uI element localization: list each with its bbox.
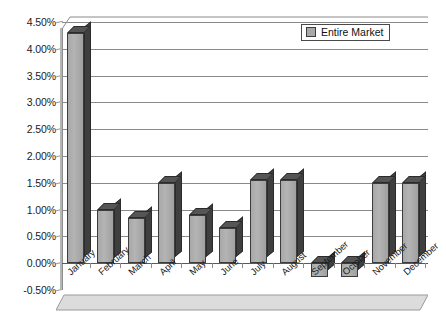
y-axis-tick-label: 0.00% [27, 257, 56, 269]
x-axis-tick-mark [242, 263, 243, 268]
x-axis-tick-mark [334, 263, 335, 268]
bar-front-face [280, 180, 297, 263]
bar-side-face [389, 171, 396, 257]
y-axis-tick-label: 4.50% [27, 16, 56, 28]
x-axis-tick-mark [425, 263, 426, 268]
bar-side-face [84, 21, 91, 257]
y-axis-tick-label: 0.50% [27, 230, 56, 242]
x-axis-tick-mark [364, 263, 365, 268]
bar-front-face [67, 33, 84, 263]
x-axis-tick-mark [90, 263, 91, 268]
bar-front-face [189, 215, 206, 263]
legend: Entire Market [301, 24, 390, 41]
bar [280, 180, 297, 263]
y-axis-tick-label: 2.00% [27, 150, 56, 162]
bar [67, 33, 84, 263]
y-axis-tick-label: 4.00% [27, 43, 56, 55]
bar-side-face [419, 171, 426, 257]
x-axis-tick-mark [120, 263, 121, 268]
y-axis-tick-label: -0.50% [23, 284, 56, 296]
x-axis-tick-mark [212, 263, 213, 268]
bar-side-face [267, 168, 274, 257]
bar-side-face [297, 168, 304, 257]
y-axis-tick-label: 1.50% [27, 177, 56, 189]
y-axis-labels: -0.50%0.00%0.50%1.00%1.50%2.00%2.50%3.00… [0, 0, 56, 329]
bar [250, 180, 267, 263]
bar [372, 183, 389, 263]
bar-front-face [158, 183, 175, 263]
x-axis-tick-mark [151, 263, 152, 268]
x-axis-tick-mark [181, 263, 182, 268]
bar [189, 215, 206, 263]
bar [158, 183, 175, 263]
x-axis-tick-mark [303, 263, 304, 268]
plot-floor [56, 289, 428, 311]
y-axis-tick-label: 1.00% [27, 204, 56, 216]
y-axis-tick-label: 2.50% [27, 123, 56, 135]
bar-front-face [250, 180, 267, 263]
bar-side-face [175, 171, 182, 257]
legend-swatch-entire-market [306, 27, 316, 37]
legend-label-entire-market: Entire Market [321, 27, 383, 38]
y-axis-tick-label: 3.00% [27, 96, 56, 108]
x-axis-tick-mark [273, 263, 274, 268]
y-axis-tick-label: 3.50% [27, 70, 56, 82]
bar-front-face [372, 183, 389, 263]
x-axis-tick-mark [395, 263, 396, 268]
bar-chart: -0.50%0.00%0.50%1.00%1.50%2.00%2.50%3.00… [0, 0, 446, 329]
